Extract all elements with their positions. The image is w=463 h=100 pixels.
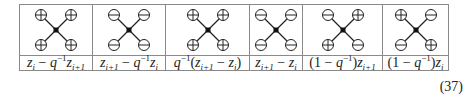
weight-label-6: (1 − q−1)zi (383, 56, 449, 71)
center-vertex-icon (274, 28, 279, 33)
plus-circle-icon (187, 40, 198, 51)
center-vertex-icon (340, 28, 345, 33)
vertex-diagram-icon (34, 7, 78, 53)
vertex-diagram-icon (107, 7, 151, 53)
minus-circle-icon (425, 10, 436, 21)
plus-circle-icon (66, 40, 77, 51)
vertex-diagram-icon (394, 7, 438, 53)
vertex-diagram-icon (254, 7, 298, 53)
center-vertex-icon (413, 28, 418, 33)
vertex-tile-1 (20, 5, 93, 56)
minus-circle-icon (256, 10, 267, 21)
weight-label-1: zi − q−1zi+1 (20, 56, 93, 71)
plus-circle-icon (352, 10, 363, 21)
plus-circle-icon (322, 40, 333, 51)
equation-number: (37) (440, 79, 463, 95)
plus-circle-icon (395, 10, 406, 21)
minus-circle-icon (139, 40, 150, 51)
vertex-diagram-icon (186, 7, 230, 53)
vertex-diagram-icon (321, 7, 365, 53)
vertex-tile-5 (303, 5, 383, 56)
center-vertex-icon (127, 28, 132, 33)
minus-circle-icon (352, 40, 363, 51)
plus-circle-icon (66, 10, 77, 21)
weight-label-2: zi+1 − q−1zi (93, 56, 166, 71)
vertex-tile-6 (383, 5, 449, 56)
minus-circle-icon (286, 10, 297, 21)
weight-label-5: (1 − q−1)zi+1 (303, 56, 383, 71)
plus-circle-icon (217, 10, 228, 21)
center-vertex-icon (205, 28, 210, 33)
minus-circle-icon (109, 40, 120, 51)
weight-label-3: q−1(zi+1 − zi) (166, 56, 250, 71)
vertex-weights-table: zi − q−1zi+1zi+1 − q−1ziq−1(zi+1 − zi)zi… (19, 4, 449, 71)
plus-circle-icon (36, 40, 47, 51)
vertex-tile-3 (166, 5, 250, 56)
minus-circle-icon (256, 40, 267, 51)
tile-row (20, 5, 449, 56)
plus-circle-icon (187, 10, 198, 21)
plus-circle-icon (36, 10, 47, 21)
vertex-tile-4 (250, 5, 303, 56)
minus-circle-icon (322, 10, 333, 21)
minus-circle-icon (139, 10, 150, 21)
minus-circle-icon (395, 40, 406, 51)
weight-label-4: zi+1 − zi (250, 56, 303, 71)
center-vertex-icon (54, 28, 59, 33)
label-row: zi − q−1zi+1zi+1 − q−1ziq−1(zi+1 − zi)zi… (20, 56, 449, 71)
plus-circle-icon (425, 40, 436, 51)
vertex-tile-2 (93, 5, 166, 56)
minus-circle-icon (286, 40, 297, 51)
plus-circle-icon (217, 40, 228, 51)
minus-circle-icon (109, 10, 120, 21)
